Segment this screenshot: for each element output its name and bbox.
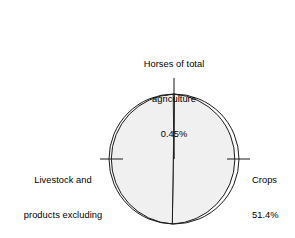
slice-label-livestock-line1: Livestock and xyxy=(6,175,120,187)
slice-label-livestock-line2: products excluding xyxy=(6,210,120,222)
pie-chart-figure: Horses of total agriculture 0.45% Livest… xyxy=(0,0,295,238)
slice-label-horses-value: 0.45% xyxy=(112,129,236,141)
slice-label-crops: Crops 51.4% xyxy=(252,152,294,238)
slice-label-horses: Horses of total agriculture 0.45% xyxy=(112,36,236,164)
slice-label-crops-value: 51.4% xyxy=(252,210,294,222)
slice-label-horses-line1: Horses of total xyxy=(112,59,236,71)
slice-label-horses-line2: agriculture xyxy=(112,94,236,106)
slice-label-crops-line1: Crops xyxy=(252,175,294,187)
slice-label-livestock: Livestock and products excluding horses/… xyxy=(6,152,120,238)
